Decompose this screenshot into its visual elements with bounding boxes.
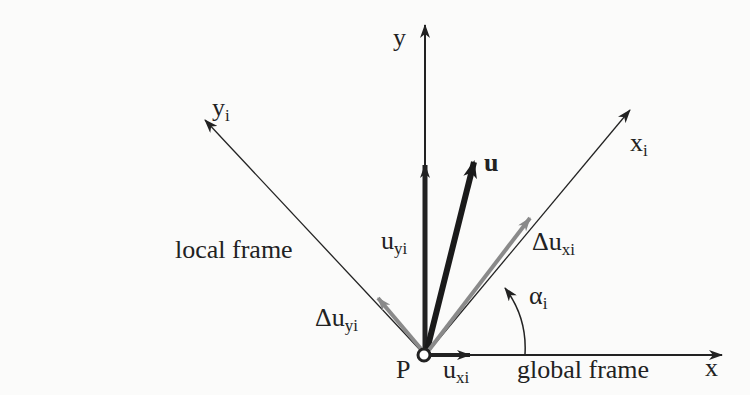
y-axis-label: y xyxy=(393,25,406,51)
local-frame-label: local frame xyxy=(175,237,293,263)
point-p-label: P xyxy=(396,357,410,383)
xi-axis-label: xi xyxy=(630,130,648,159)
diagram-graphics xyxy=(0,0,750,395)
global-frame-label: global frame xyxy=(517,357,649,383)
delta-uxi-label: Δuxi xyxy=(532,229,575,258)
delta-uyi-label: Δuyi xyxy=(315,305,358,334)
x-axis-label: x xyxy=(705,355,718,381)
point-p xyxy=(418,349,430,361)
diagram-canvas: y yi xi u uyi local frame Δuxi αi Δuyi P… xyxy=(0,0,750,395)
uyi-label: uyi xyxy=(381,228,407,257)
alpha-label: αi xyxy=(529,283,547,312)
yi-axis-label: yi xyxy=(212,95,230,124)
alpha-arc xyxy=(505,288,525,354)
u-vector-label: u xyxy=(484,150,498,176)
uxi-label: uxi xyxy=(443,357,469,386)
delta-uyi-vector xyxy=(378,298,422,350)
